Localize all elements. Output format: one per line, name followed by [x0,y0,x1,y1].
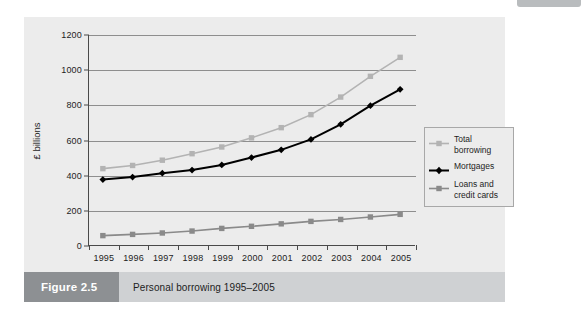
figure-caption-wrapper: Personal borrowing 1995–2005 [119,272,505,302]
x-axis-tick-label: 1999 [212,253,233,263]
legend-swatch-icon [429,162,449,173]
x-axis-tick-label: 1998 [183,253,204,263]
y-axis-tick-label: 800 [66,100,82,110]
x-axis-tick-label: 2003 [331,253,352,263]
legend-swatch-icon [429,180,449,191]
data-point-diamond [159,170,166,177]
data-point-square [249,224,254,229]
legend-label: Mortgages [454,161,494,172]
chart-legend: Total borrowingMortgagesLoans and credit… [424,127,514,207]
data-point-square [130,163,135,168]
data-point-square [279,125,284,130]
data-point-square [368,214,373,219]
figure-number-label: Figure 2.5 [24,272,119,302]
data-point-square [219,144,224,149]
y-axis-tick-label: 1000 [61,65,82,75]
data-point-diamond [129,174,136,181]
y-axis-tick-label: 400 [66,171,82,181]
page-edge-artifact [517,0,581,7]
data-point-diamond [99,176,106,183]
data-point-square [249,135,254,140]
series-line [103,57,400,168]
x-axis-tick-mark [416,245,417,250]
data-point-square [338,94,343,99]
data-point-diamond [278,146,285,153]
data-point-square [130,232,135,237]
chart-series-svg [88,35,415,246]
data-point-square [308,219,313,224]
data-point-square [189,151,194,156]
series-3 [100,212,403,239]
data-point-square [219,226,224,231]
figure-panel: £ billions 02004006008001000120019951996… [24,17,505,302]
x-axis-tick-label: 2004 [361,253,382,263]
data-point-square [160,230,165,235]
x-axis-tick-label: 2005 [391,253,412,263]
x-axis-tick-label: 1996 [123,253,144,263]
data-point-square [308,112,313,117]
data-point-square [397,55,402,60]
y-axis-tick-label: 1200 [61,30,82,40]
data-point-diamond [248,154,255,161]
data-point-diamond [308,136,315,143]
data-point-square [368,74,373,79]
data-point-diamond [189,167,196,174]
data-point-diamond [218,162,225,169]
x-axis-tick-label: 2000 [242,253,263,263]
figure-caption-bar: Figure 2.5 Personal borrowing 1995–2005 [24,272,505,302]
series-2 [99,86,403,183]
data-point-square [160,157,165,162]
y-axis-tick-label: 600 [66,136,82,146]
data-point-square [279,221,284,226]
legend-label: Total borrowing [454,134,508,155]
legend-label: Loans and credit cards [454,179,498,200]
x-axis-tick-label: 1995 [93,253,114,263]
x-axis-tick-label: 1997 [153,253,174,263]
legend-item-1[interactable]: Total borrowing [429,134,508,155]
legend-item-2[interactable]: Mortgages [429,161,508,173]
legend-item-3[interactable]: Loans and credit cards [429,179,508,200]
y-axis-tick-label: 0 [77,241,82,251]
data-point-square [338,217,343,222]
legend-swatch-icon [429,135,449,146]
data-point-square [189,228,194,233]
data-point-square [100,166,105,171]
y-axis-label: £ billions [31,123,42,160]
y-axis-tick-label: 200 [66,206,82,216]
figure-caption-text: Personal borrowing 1995–2005 [133,282,275,293]
series-line [103,89,400,179]
data-point-square [397,212,402,217]
x-axis-tick-label: 2002 [302,253,323,263]
data-point-square [100,233,105,238]
x-axis-tick-label: 2001 [272,253,293,263]
